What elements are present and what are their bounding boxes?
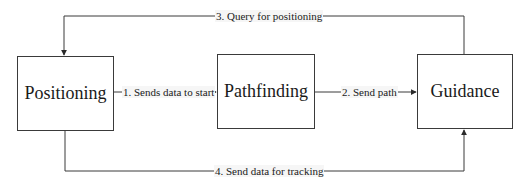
edge-label-query-for-positioning: 3. Query for positioning — [215, 10, 323, 22]
node-positioning: Positioning — [17, 56, 114, 131]
edge-label-send-data-for-tracking: 4. Send data for tracking — [214, 165, 324, 177]
flow-diagram: Positioning Pathfinding Guidance 1. Send… — [0, 0, 531, 186]
node-label: Positioning — [24, 83, 106, 104]
edge-label-send-path: 2. Send path — [341, 86, 398, 98]
node-pathfinding: Pathfinding — [217, 54, 315, 129]
edge-label-sends-data-to-start: 1. Sends data to start — [122, 86, 215, 98]
node-label: Guidance — [431, 81, 500, 102]
node-guidance: Guidance — [417, 54, 513, 129]
node-label: Pathfinding — [224, 81, 308, 102]
